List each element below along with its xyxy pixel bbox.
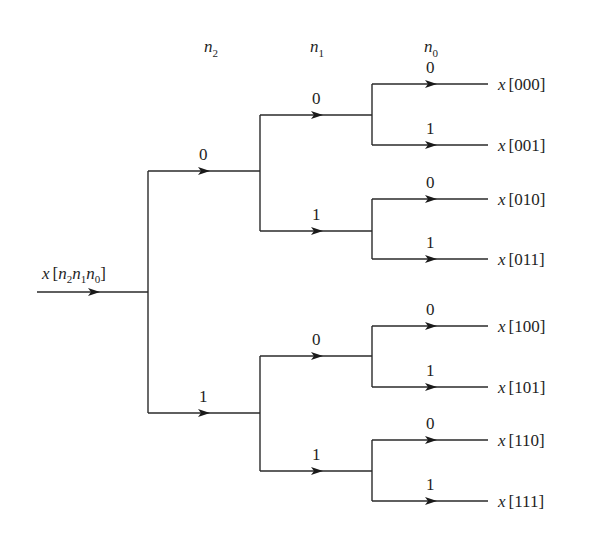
bit-label: 1 (312, 445, 321, 464)
output-label: x[011] (497, 250, 545, 269)
bit-label: 1 (426, 475, 435, 494)
output-label: x[111] (497, 492, 544, 511)
output-label: x[010] (497, 190, 545, 209)
bit-label: 1 (426, 119, 435, 138)
output-label: x[000] (497, 75, 545, 94)
bit-label: 1 (426, 233, 435, 252)
column-headers: n2 n1 n0 (204, 37, 439, 59)
input-label: x[n2n1n0] (41, 264, 106, 285)
header-n0: n0 (424, 37, 439, 59)
header-n2: n2 (204, 37, 218, 59)
bit-label: 0 (426, 58, 435, 77)
bit-label: 0 (426, 173, 435, 192)
bit-label: 1 (312, 205, 321, 224)
bit-label: 1 (199, 387, 208, 406)
level2: 0 1 0 1 (260, 89, 372, 475)
bit-label: 0 (199, 145, 208, 164)
output-label: x[001] (497, 136, 545, 155)
bit-label: 0 (426, 300, 435, 319)
tree-diagram: n2 n1 n0 x[n2n1n0] 0 1 0 1 0 1 (0, 0, 589, 538)
bit-label: 0 (312, 330, 321, 349)
level1: 0 1 (148, 145, 260, 417)
bit-label: 0 (312, 89, 321, 108)
output-label: x[101] (497, 378, 545, 397)
level3: 0 1 0 1 0 1 0 1 (372, 58, 488, 505)
output-label: x[100] (497, 317, 545, 336)
bit-label: 0 (426, 414, 435, 433)
input-branch: x[n2n1n0] (37, 264, 148, 296)
header-n1: n1 (310, 37, 324, 59)
output-label: x[110] (497, 431, 545, 450)
bit-label: 1 (426, 361, 435, 380)
outputs: x[000] x[001] x[010] x[011] x[100] x[101… (497, 75, 545, 511)
